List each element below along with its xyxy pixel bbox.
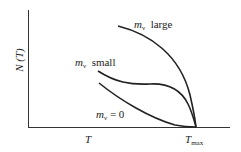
x-label-t: T: [85, 134, 91, 145]
curve-mv-large: [118, 26, 196, 127]
label-mv-large: mν large: [134, 19, 172, 30]
label-mv-zero: mν = 0: [96, 109, 124, 120]
curve-mv-zero: [99, 83, 196, 127]
label-mv-small: mν small: [75, 57, 115, 68]
chart-canvas: [0, 0, 241, 152]
y-axis-label: N (T): [13, 45, 25, 75]
x-label-tmax: Tmax: [185, 134, 203, 145]
